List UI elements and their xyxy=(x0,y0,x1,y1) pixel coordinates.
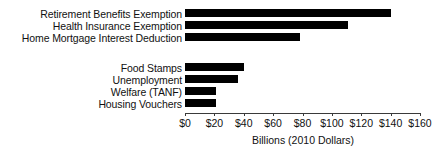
x-tick-mark-20 xyxy=(214,113,215,116)
bar-food-stamps xyxy=(185,63,244,71)
bar-chart: Retirement Benefits Exemption Health Ins… xyxy=(0,0,438,155)
x-tick-mark-40 xyxy=(244,113,245,116)
x-tick-label-20: $20 xyxy=(206,117,224,129)
bar-housing-vouchers xyxy=(185,99,216,107)
x-tick-label-60: $60 xyxy=(264,117,282,129)
x-tick-label-100: $100 xyxy=(320,117,343,129)
x-tick-label-120: $120 xyxy=(350,117,373,129)
x-tick-mark-120 xyxy=(361,113,362,116)
x-tick-mark-160 xyxy=(420,113,421,116)
x-tick-label-140: $140 xyxy=(379,117,402,129)
category-label-health-insurance-exemption: Health Insurance Exemption xyxy=(0,21,182,31)
category-axis-labels: Retirement Benefits Exemption Health Ins… xyxy=(0,0,182,112)
x-tick-label-0: $0 xyxy=(179,117,191,129)
x-axis-title: Billions (2010 Dollars) xyxy=(185,134,421,146)
category-label-food-stamps: Food Stamps xyxy=(0,63,182,73)
category-label-home-mortgage-interest-deduction: Home Mortgage Interest Deduction xyxy=(0,33,182,43)
category-label-retirement-benefits-exemption: Retirement Benefits Exemption xyxy=(0,9,182,19)
x-tick-label-40: $40 xyxy=(235,117,253,129)
bar-unemployment xyxy=(185,75,238,83)
x-tick-mark-140 xyxy=(391,113,392,116)
category-label-housing-vouchers: Housing Vouchers xyxy=(0,99,182,109)
category-label-welfare-tanf: Welfare (TANF) xyxy=(0,87,182,97)
bar-health-insurance-exemption xyxy=(185,21,348,29)
x-tick-label-160: $160 xyxy=(408,117,431,129)
bar-retirement-benefits-exemption xyxy=(185,9,391,17)
x-tick-mark-100 xyxy=(332,113,333,116)
x-tick-label-80: $80 xyxy=(294,117,312,129)
category-label-unemployment: Unemployment xyxy=(0,75,182,85)
bar-home-mortgage-interest-deduction xyxy=(185,33,300,41)
x-tick-mark-0 xyxy=(185,113,186,116)
x-tick-mark-60 xyxy=(273,113,274,116)
bar-welfare-tanf xyxy=(185,87,216,95)
x-tick-mark-80 xyxy=(303,113,304,116)
plot-area xyxy=(185,8,420,113)
